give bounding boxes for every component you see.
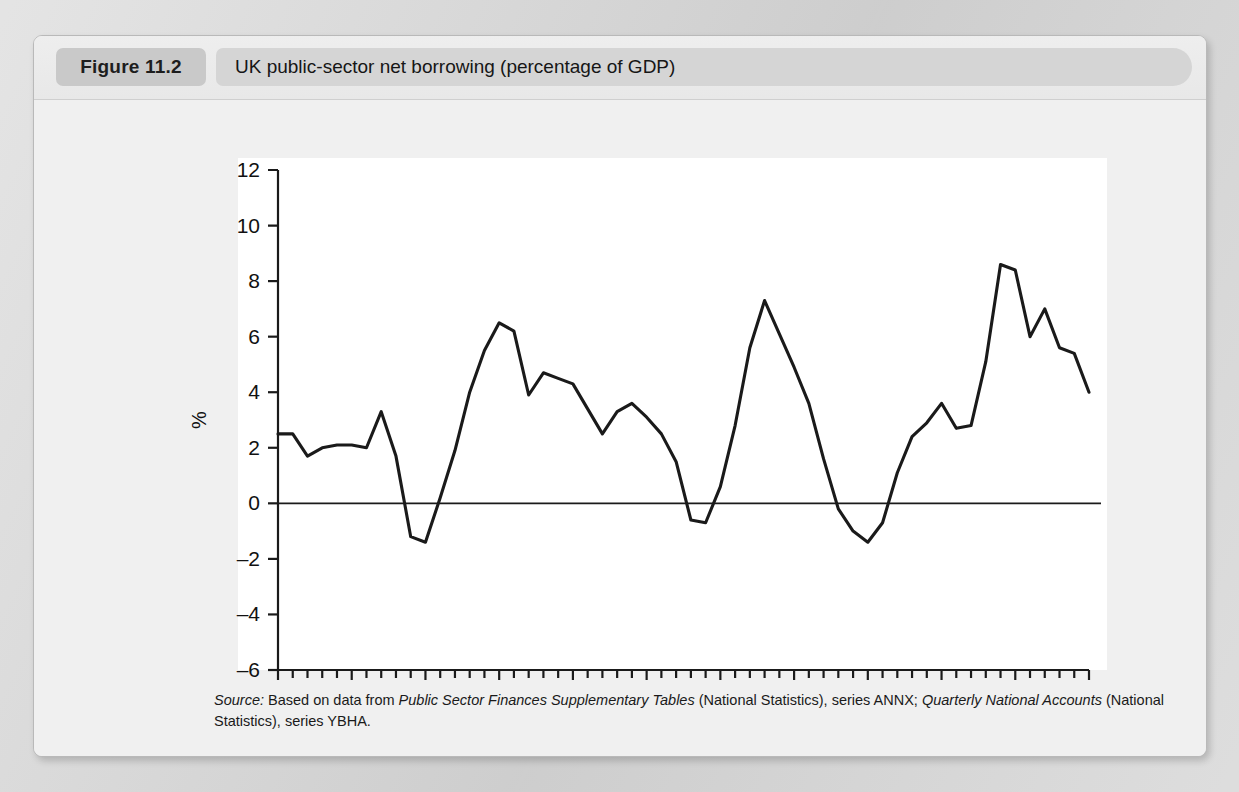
figure-title: UK public-sector net borrowing (percenta… (216, 48, 1192, 86)
plot-background (238, 158, 1107, 670)
y-axis-tick-label: 2 (248, 436, 260, 459)
source-note: Source: Based on data from Public Sector… (214, 690, 1164, 732)
source-text-1: Based on data from (264, 692, 399, 708)
source-italic-2: Quarterly National Accounts (922, 692, 1102, 708)
figure-number-badge: Figure 11.2 (56, 48, 206, 86)
y-axis-tick-label: 12 (237, 158, 260, 181)
chart-plot-area: 121086420–2–4–6 196019651970197519801985… (34, 100, 1206, 680)
figure-card: Figure 11.2 UK public-sector net borrowi… (33, 35, 1207, 757)
y-axis-tick-label: 10 (237, 214, 260, 237)
x-axis: 1960196519701975198019851990199520002005… (255, 670, 1113, 680)
y-axis-tick-label: –2 (237, 547, 260, 570)
figure-header: Figure 11.2 UK public-sector net borrowi… (34, 36, 1206, 99)
source-italic-1: Public Sector Finances Supplementary Tab… (399, 692, 695, 708)
figure-body: 121086420–2–4–6 196019651970197519801985… (34, 99, 1206, 757)
source-label: Source: (214, 692, 264, 708)
y-axis-tick-label: –6 (237, 658, 260, 680)
y-axis-tick-label: 8 (248, 269, 260, 292)
y-axis-tick-label: 4 (248, 380, 260, 403)
y-axis-tick-label: 0 (248, 491, 260, 514)
line-chart: 121086420–2–4–6 196019651970197519801985… (34, 100, 1206, 680)
y-axis-tick-label: 6 (248, 325, 260, 348)
source-text-2: (National Statistics), series ANNX; (695, 692, 922, 708)
y-axis-label: % (188, 411, 210, 429)
y-axis-tick-label: –4 (237, 602, 261, 625)
y-axis-title: % (188, 411, 210, 429)
